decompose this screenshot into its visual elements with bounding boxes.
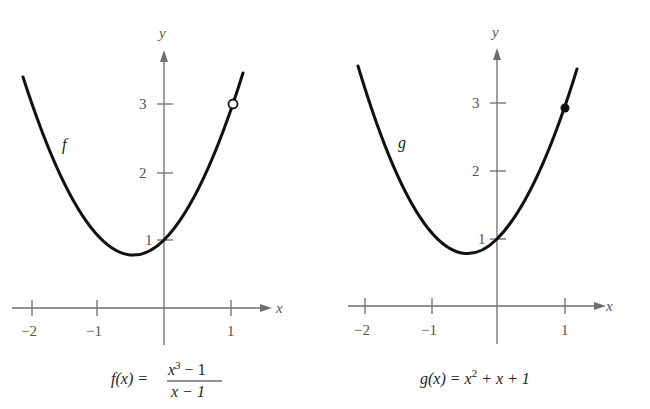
x-tick-label: −2 (354, 322, 370, 338)
y-axis-label: y (490, 24, 499, 40)
open-point-marker (229, 100, 238, 109)
figure: y x −2 −1 1 1 2 3 f f(x) = x3 − 1 x − 1 (0, 0, 650, 409)
x-tick-label: −2 (21, 323, 37, 339)
x-tick-label: −1 (86, 323, 102, 339)
y-axis-label: y (157, 25, 166, 41)
y-tick-label: 2 (472, 163, 480, 179)
x-axis-arrow-icon (260, 304, 272, 312)
y-tick-label: 3 (472, 95, 480, 111)
curve-f (23, 73, 243, 255)
x-tick-label: 1 (227, 323, 235, 339)
caption-f-numerator: x3 − 1 (167, 359, 206, 378)
curve-g (358, 66, 577, 254)
y-tick-label: 2 (139, 165, 147, 181)
caption-f-denominator: x − 1 (170, 383, 205, 400)
x-tick-label: −1 (421, 322, 437, 338)
caption-f-lhs: f(x) = (111, 370, 148, 388)
svg-text:f(x) =: f(x) = (111, 370, 148, 388)
x-axis-label: x (605, 298, 613, 314)
caption-g: g(x) = x2 + x + 1 (420, 367, 530, 388)
curve-label-f: f (62, 136, 69, 154)
x-axis-arrow-icon (594, 302, 606, 310)
filled-point-marker (561, 104, 570, 113)
x-tick-label: 1 (561, 322, 569, 338)
graph-f: y x −2 −1 1 1 2 3 f f(x) = x3 − 1 x − 1 (12, 25, 283, 400)
graph-g: y x −2 −1 1 1 2 3 g g(x) = x2 + x + 1 (348, 24, 613, 388)
curve-label-g: g (398, 134, 406, 152)
y-axis-arrow-icon (493, 48, 501, 60)
y-tick-label: 1 (478, 231, 486, 247)
y-tick-label: 1 (145, 232, 153, 248)
y-axis-arrow-icon (160, 50, 168, 62)
y-tick-label: 3 (139, 96, 147, 112)
caption-f: f(x) = x3 − 1 x − 1 (111, 359, 222, 400)
x-axis-label: x (275, 300, 283, 316)
